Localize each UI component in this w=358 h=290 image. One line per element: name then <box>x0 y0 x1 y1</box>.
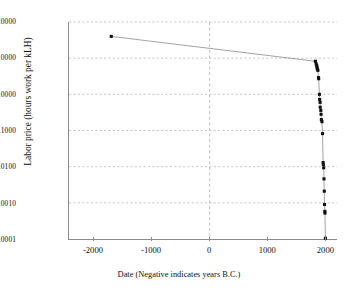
x-tick-label: 2000 <box>295 245 355 255</box>
y-tick-label: 0.1000 <box>0 127 16 135</box>
x-tick-label: 0 <box>179 245 239 255</box>
y-axis-title: Labor price (hours work per kLH) <box>23 2 34 202</box>
x-tick-label: 1000 <box>237 245 297 255</box>
y-tick-label: 1.0000 <box>0 91 16 99</box>
plot-area <box>68 22 337 240</box>
x-tick-mark <box>209 237 210 241</box>
x-tick-mark <box>325 237 326 241</box>
x-tick-label: -2000 <box>63 245 123 255</box>
chart-figure: 0.00010.00100.01000.10001.000010.0000100… <box>0 0 358 290</box>
y-tick-label: 10.0000 <box>0 54 16 62</box>
x-axis-title: Date (Negative indicates years B.C.) <box>0 270 358 280</box>
data-series <box>69 22 337 239</box>
x-tick-mark <box>267 237 268 241</box>
y-tick-label: 0.0100 <box>0 163 16 171</box>
x-tick-mark <box>151 237 152 241</box>
y-tick-label: 0.0010 <box>0 200 16 208</box>
y-tick-label: 100.0000 <box>0 18 16 26</box>
x-tick-mark <box>93 237 94 241</box>
x-tick-label: -1000 <box>121 245 181 255</box>
y-tick-label: 0.0001 <box>0 236 16 244</box>
